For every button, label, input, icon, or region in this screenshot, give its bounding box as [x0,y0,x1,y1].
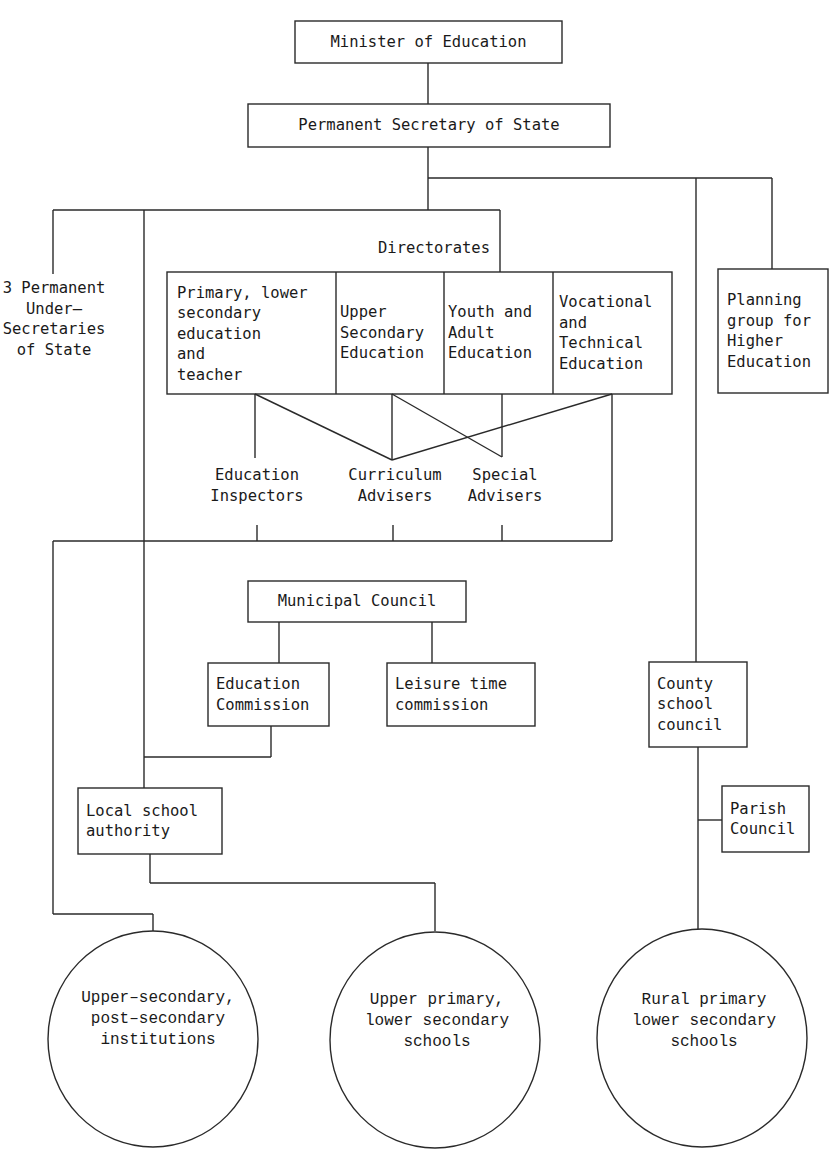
county-school-council-label: County school council [657,674,722,736]
under-secretaries-label: 3 Permanent Under– Secretaries of State [0,278,108,360]
directorate-vocational-technical: Vocational and Technical Education [553,272,672,394]
directorate-label: Youth and Adult Education [448,302,532,364]
leisure-time-commission-box: Leisure time commission [387,663,535,726]
directorate-label: Vocational and Technical Education [559,292,652,374]
permanent-secretary-label: Permanent Secretary of State [298,115,559,136]
directorate-youth-adult: Youth and Adult Education [444,272,553,394]
directorate-primary-lower-secondary: Primary, lower secondary education and t… [167,272,336,394]
directorate-upper-secondary: Upper Secondary Education [336,272,444,394]
upper-primary-schools-circle: Upper primary, lower secondary schools [337,990,537,1053]
local-school-authority-label: Local school authority [86,801,198,842]
leisure-time-commission-label: Leisure time commission [395,674,507,715]
minister-of-education-box: Minister of Education [295,21,562,63]
directorate-label: Primary, lower secondary education and t… [177,283,308,386]
parish-council-label: Parish Council [730,799,795,840]
municipal-council-label: Municipal Council [278,591,437,612]
municipal-council-box: Municipal Council [248,581,466,622]
upper-secondary-institutions-circle: Upper–secondary, post–secondary institut… [58,988,258,1051]
education-commission-label: Education Commission [216,674,309,715]
planning-group-label: Planning group for Higher Education [727,290,811,372]
local-school-authority-box: Local school authority [78,788,222,854]
education-inspectors-label: Education Inspectors [195,465,319,506]
planning-group-box: Planning group for Higher Education [718,269,828,393]
permanent-secretary-box: Permanent Secretary of State [248,104,610,147]
minister-label: Minister of Education [331,32,527,53]
curriculum-advisers-label: Curriculum Advisers [340,465,450,506]
rural-primary-schools-circle: Rural primary lower secondary schools [604,990,804,1053]
education-commission-box: Education Commission [208,663,329,726]
special-advisers-label: Special Advisers [455,465,555,506]
parish-council-box: Parish Council [722,786,809,852]
directorate-label: Upper Secondary Education [340,302,424,364]
county-school-council-box: County school council [649,662,747,747]
directorates-label: Directorates [370,238,490,259]
